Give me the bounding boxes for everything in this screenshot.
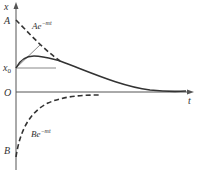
lower-envelope-label: Be−mt	[31, 128, 51, 139]
y-axis-label: x	[3, 1, 9, 12]
motion-curve	[16, 56, 186, 91]
x-axis-arrow-icon	[187, 90, 194, 95]
lower-envelope-curve	[16, 95, 100, 157]
upper-envelope-label: Ae−mt	[31, 20, 52, 31]
label-x0: x0	[2, 62, 11, 75]
y-axis-arrow-icon	[14, 2, 19, 9]
origin-label: O	[4, 87, 11, 98]
label-A: A	[3, 15, 11, 26]
damped-motion-diagram: x t O A x0 B Ae−mt Be−mt	[0, 0, 200, 173]
label-B: B	[4, 145, 10, 156]
x-axis-label: t	[188, 95, 191, 106]
